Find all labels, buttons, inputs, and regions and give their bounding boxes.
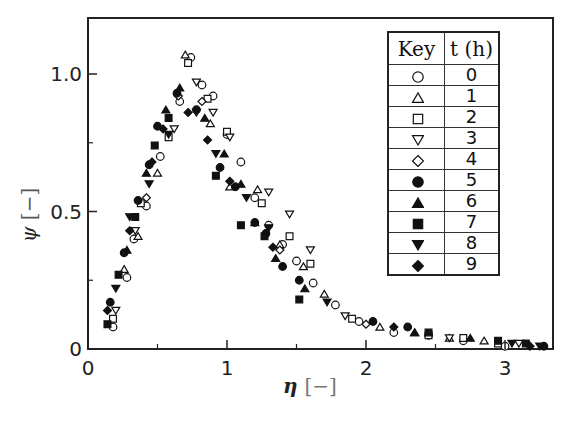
data-point-t7 [238,222,245,229]
data-point-t3 [341,313,349,320]
data-point-t7 [115,271,122,278]
diamond-filled-icon [412,261,423,272]
y-axis-title: ψ [−] [17,188,41,242]
legend-row: 5 [388,170,499,191]
triangle-filled-icon [412,198,423,207]
legend-time-value: 5 [445,170,500,191]
data-point-t5 [106,298,114,306]
data-point-t6 [162,106,170,113]
data-point-t2 [460,335,467,342]
data-point-t3 [265,189,273,196]
data-point-t2 [258,200,265,207]
data-point-t1 [320,290,328,297]
legend-row: 9 [388,254,499,276]
y-tick-label: 1.0 [50,62,82,86]
x-axis-title: η [−] [283,374,337,398]
data-point-t0 [293,257,301,265]
data-point-t0 [123,274,131,282]
legend-time-value: 1 [445,86,500,107]
data-point-t0 [156,153,164,161]
data-point-t1 [299,263,307,270]
x-tick-label: 1 [221,356,234,380]
legend-marker-cell [388,107,445,128]
data-point-t3 [306,247,314,254]
triangle-open-icon [412,93,423,102]
data-point-t0 [198,81,206,89]
data-point-t6 [142,169,150,176]
y-tick-label: 0 [69,337,82,361]
data-point-t6 [176,84,184,91]
legend-marker-cell [388,149,445,170]
legend-marker-cell [388,254,445,276]
legend-row: 8 [388,233,499,254]
data-point-t6 [201,114,209,121]
data-point-t2 [307,260,314,267]
data-point-t0 [251,194,259,202]
data-point-t3 [515,340,523,347]
data-point-t3 [209,109,217,116]
triangle-down-open-icon [412,136,423,145]
legend-marker-cell [388,233,445,254]
data-point-t5 [279,263,287,271]
data-point-t5 [404,323,412,331]
data-point-t5 [134,197,142,205]
data-point-t7 [495,337,502,344]
legend-time-value: 9 [445,254,500,276]
legend-time-value: 7 [445,212,500,233]
legend-time-value: 0 [445,65,500,86]
data-point-t5 [295,276,303,284]
data-point-t6 [411,329,419,336]
legend-time-value: 4 [445,149,500,170]
legend-marker-cell [388,86,445,107]
data-point-t9 [184,109,192,117]
data-point-t0 [309,279,317,287]
legend-header-key: Key [388,32,445,65]
legend-row: 6 [388,191,499,212]
data-point-t1 [154,169,162,176]
legend-row: 1 [388,86,499,107]
legend-rows: 0123456789 [388,65,499,276]
data-point-t1 [376,323,384,330]
legend-marker-cell [388,212,445,233]
legend-time-value: 3 [445,128,500,149]
legend-marker-cell [388,65,445,86]
data-point-t2 [349,315,356,322]
y-tick-label: 0.5 [50,200,82,224]
x-tick-label: 2 [360,356,373,380]
legend-row: 2 [388,107,499,128]
data-point-t6 [301,285,309,292]
data-point-t0 [237,158,245,166]
data-point-t9 [204,136,212,144]
legend-row: 4 [388,149,499,170]
data-point-t5 [369,318,377,326]
data-point-t8 [212,151,220,158]
data-point-t7 [212,172,219,179]
data-point-t0 [332,301,340,309]
data-point-t6 [272,255,280,262]
square-filled-icon [413,219,422,228]
legend-table: Key t (h) 0123456789 [387,31,500,276]
circle-filled-icon [412,177,422,187]
data-point-t8 [145,181,153,188]
legend-time-value: 6 [445,191,500,212]
legend-time-value: 2 [445,107,500,128]
triangle-down-filled-icon [412,241,423,250]
data-point-t7 [425,329,432,336]
legend-marker-cell [388,170,445,191]
data-point-t6 [466,334,474,341]
data-point-t2 [286,233,293,240]
data-point-t3 [286,211,294,218]
data-point-t7 [151,142,158,149]
data-point-t1 [254,186,262,193]
data-point-t2 [185,60,192,67]
square-open-icon [413,114,422,123]
legend-header-time: t (h) [445,32,500,65]
x-tick-label: 0 [82,356,95,380]
data-point-t7 [261,233,268,240]
legend-row: 0 [388,65,499,86]
data-point-t5 [216,164,224,172]
legend-marker-cell [388,128,445,149]
legend-row: 7 [388,212,499,233]
data-point-t8 [242,195,250,202]
legend-row: 3 [388,128,499,149]
